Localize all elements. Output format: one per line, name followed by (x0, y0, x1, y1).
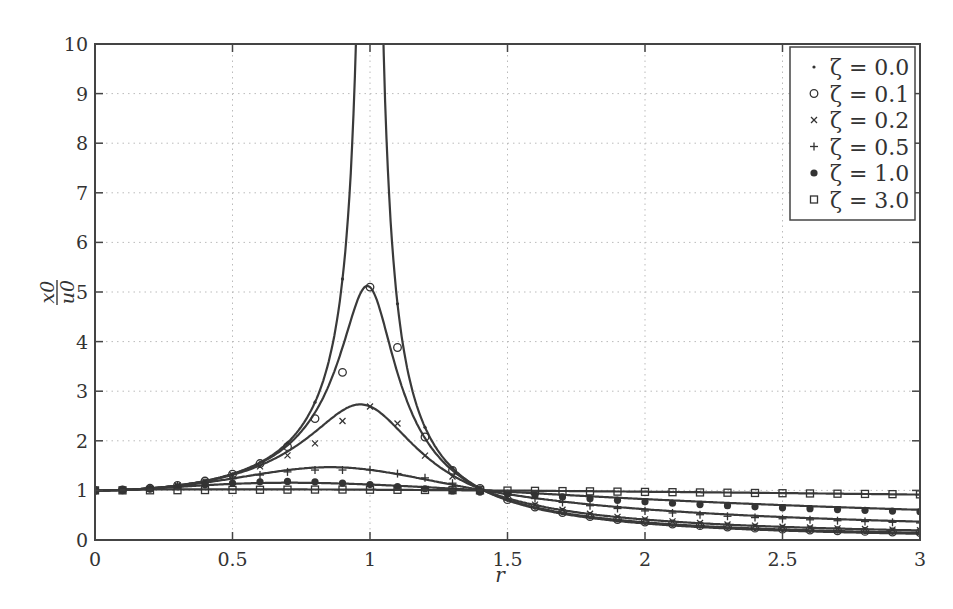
legend-label: ζ = 1.0 (830, 161, 909, 186)
legend-label: ζ = 0.0 (830, 55, 909, 80)
legend-label: ζ = 0.1 (830, 82, 909, 107)
legend: ζ = 0.0ζ = 0.1ζ = 0.2ζ = 0.5ζ = 1.0ζ = 3… (790, 47, 915, 220)
y-tick-label: 6 (76, 231, 88, 253)
legend-label: ζ = 0.5 (830, 135, 909, 160)
legend-label: ζ = 3.0 (830, 188, 909, 213)
legend-label: ζ = 0.2 (830, 108, 909, 133)
y-tick-label: 8 (76, 132, 88, 154)
x-tick-label: 2 (639, 548, 651, 570)
x-tick-label: 0.5 (217, 548, 247, 570)
y-tick-label: 10 (64, 33, 88, 55)
y-tick-label: 2 (76, 430, 88, 452)
x-tick-label: 3 (914, 548, 926, 570)
series-4 (91, 478, 923, 516)
y-tick-label: 4 (76, 331, 88, 353)
y-tick-label: 1 (76, 479, 88, 501)
x-tick-label: 0 (89, 548, 101, 570)
x-tick-label: 1 (364, 548, 376, 570)
y-tick-label: 0 (76, 529, 88, 551)
y-axis-label: x0 u0 (36, 280, 78, 305)
x-axis-label: r (495, 563, 506, 587)
x-tick-label: 2.5 (767, 548, 797, 570)
transmissibility-chart: 00.511.522.53012345678910 r x0 u0 ζ = 0.… (0, 0, 953, 609)
y-tick-label: 3 (76, 380, 88, 402)
y-tick-label: 9 (76, 83, 88, 105)
svg-text:x0: x0 (36, 281, 58, 304)
y-tick-label: 7 (76, 182, 88, 204)
svg-text:u0: u0 (56, 280, 78, 304)
